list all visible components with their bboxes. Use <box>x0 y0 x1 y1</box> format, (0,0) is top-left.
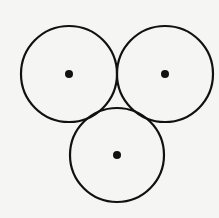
center-dot-bottom <box>113 151 121 159</box>
center-dot-top-right <box>161 70 169 78</box>
circles-group <box>21 26 213 202</box>
three-circles-diagram <box>0 0 219 218</box>
center-dot-top-left <box>65 70 73 78</box>
